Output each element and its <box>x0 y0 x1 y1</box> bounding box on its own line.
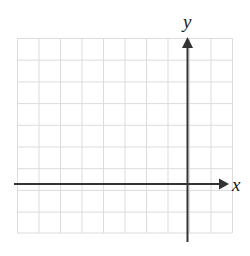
y-axis-label: y <box>183 12 191 31</box>
x-axis-label: x <box>232 175 240 194</box>
y-axis <box>182 37 193 242</box>
x-axis-arrowhead-icon <box>219 179 229 190</box>
grid-vertical-lines <box>18 38 233 233</box>
coordinate-grid-figure: x y <box>0 0 250 256</box>
grid-lines <box>17 38 233 233</box>
coordinate-plane-svg <box>0 0 250 256</box>
x-axis <box>14 179 229 190</box>
